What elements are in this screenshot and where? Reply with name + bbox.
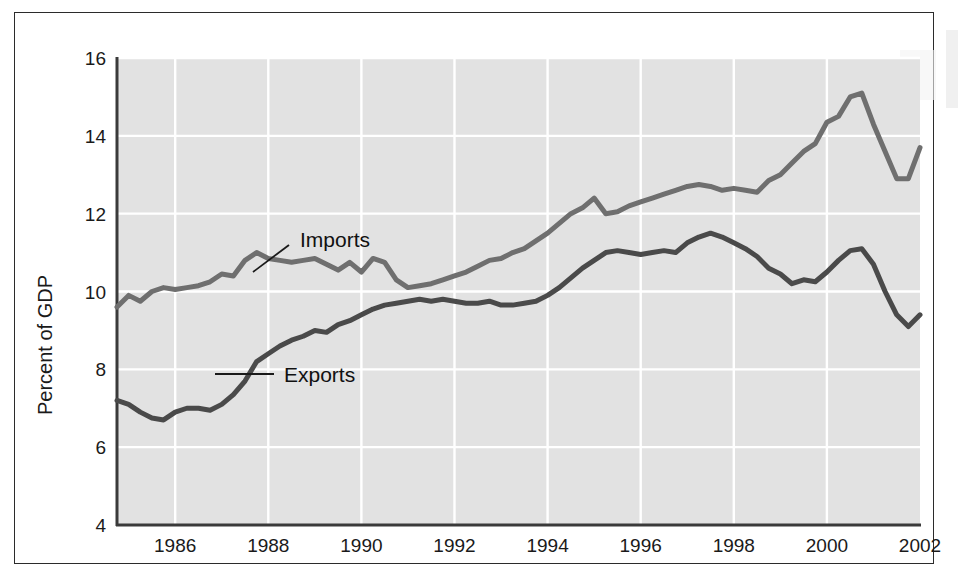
x-tick-label: 2002 — [899, 535, 941, 556]
y-tick-label: 12 — [85, 204, 106, 225]
y-tick-label: 6 — [95, 437, 106, 458]
annotation-label: Imports — [300, 228, 370, 251]
x-tick-label: 1990 — [340, 535, 382, 556]
y-tick-label: 8 — [95, 359, 106, 380]
x-tick-label: 1988 — [247, 535, 289, 556]
line-chart: 46810121416 1986198819901992199419961998… — [0, 0, 967, 586]
y-tick-label: 10 — [85, 282, 106, 303]
x-tick-label: 1986 — [154, 535, 196, 556]
x-tick-label: 1996 — [620, 535, 662, 556]
figure-container: 46810121416 1986198819901992199419961998… — [0, 0, 967, 586]
y-tick-label: 4 — [95, 515, 106, 536]
annotation-label: Exports — [284, 363, 355, 386]
y-tick-label: 16 — [85, 48, 106, 69]
x-axis-tick-labels: 198619881990199219941996199820002002 — [154, 535, 941, 556]
y-axis-title: Percent of GDP — [34, 275, 56, 415]
x-tick-label: 2000 — [806, 535, 848, 556]
x-tick-label: 1992 — [433, 535, 475, 556]
x-tick-label: 1998 — [713, 535, 755, 556]
y-axis-tick-labels: 46810121416 — [85, 48, 107, 536]
x-tick-label: 1994 — [526, 535, 569, 556]
y-tick-label: 14 — [85, 126, 107, 147]
